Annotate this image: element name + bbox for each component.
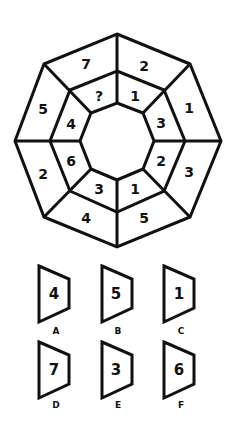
spoke-bottom-right — [143, 169, 190, 217]
option-d-label: D — [52, 400, 59, 410]
inner-cell-left-top: 4 — [66, 116, 76, 132]
inner-cell-top-right: 1 — [130, 88, 140, 104]
outer-cell-right-bottom: 3 — [184, 164, 194, 180]
option-a-value: 4 — [49, 285, 59, 303]
inner-cell-bottom-right: 1 — [130, 181, 140, 197]
option-c[interactable]: 1 C — [164, 266, 194, 336]
spoke-top-right — [143, 64, 190, 113]
option-a[interactable]: 4 A — [39, 266, 69, 336]
inner-octagon — [80, 103, 154, 180]
option-c-label: C — [178, 326, 185, 336]
option-d[interactable]: 7 D — [39, 342, 69, 410]
puzzle-canvas: 7 2 1 3 5 4 2 5 ? 1 3 2 1 3 6 4 4 A 5 B — [0, 0, 231, 436]
option-d-value: 7 — [49, 361, 59, 379]
option-b-label: B — [115, 326, 122, 336]
option-f-value: 6 — [174, 361, 184, 379]
outer-cell-bottom-right: 5 — [139, 210, 149, 226]
option-b[interactable]: 5 B — [102, 266, 132, 336]
outer-cell-top-right: 2 — [139, 58, 149, 74]
octagon-diagram — [15, 34, 221, 247]
inner-cell-right-bottom: 2 — [156, 153, 166, 169]
option-c-value: 1 — [174, 285, 184, 303]
outer-cell-left-bottom: 2 — [38, 166, 48, 182]
option-f-label: F — [178, 400, 184, 410]
outer-cell-bottom-left: 4 — [81, 210, 91, 226]
option-e-value: 3 — [111, 361, 121, 379]
outer-cell-left-top: 5 — [38, 101, 48, 117]
option-a-label: A — [53, 326, 60, 336]
inner-cell-top-left-unknown: ? — [95, 88, 103, 104]
inner-cell-bottom-left: 3 — [94, 181, 104, 197]
answer-options: 4 A 5 B 1 C 7 D 3 E 6 F — [39, 266, 194, 410]
option-f[interactable]: 6 F — [164, 342, 194, 410]
outer-cell-right-top: 1 — [184, 100, 194, 116]
option-b-value: 5 — [111, 285, 121, 303]
outer-cell-top-left: 7 — [81, 56, 91, 72]
option-e-label: E — [115, 400, 121, 410]
option-e[interactable]: 3 E — [102, 342, 132, 410]
inner-cell-left-bottom: 6 — [66, 153, 76, 169]
inner-cell-right-top: 3 — [156, 115, 166, 131]
